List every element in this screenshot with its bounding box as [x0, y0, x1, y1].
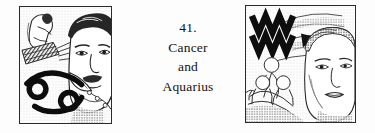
caption-conjunction: and	[122, 57, 254, 77]
illustration-panel-aquarius	[245, 5, 356, 123]
illustration-panel-cancer	[19, 6, 112, 124]
caption-subject-a: Cancer	[122, 38, 254, 58]
figure-page: 41. Cancer and Aquarius	[0, 0, 375, 133]
womans-face	[305, 28, 355, 122]
figure-caption: 41. Cancer and Aquarius	[122, 18, 254, 96]
caption-number: 41.	[122, 18, 254, 38]
caption-subject-b: Aquarius	[122, 77, 254, 97]
aquarius-plate-artwork	[246, 6, 355, 122]
cancer-plate-artwork	[20, 7, 111, 123]
